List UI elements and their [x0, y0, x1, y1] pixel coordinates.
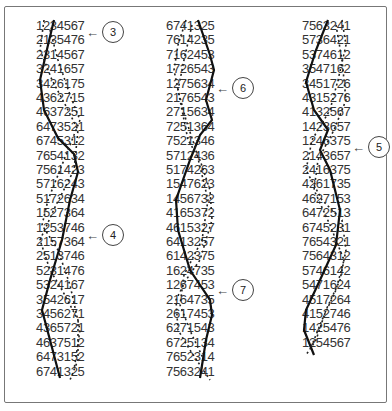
- dotted-path-line: [178, 25, 208, 360]
- dotted-path-line: [42, 30, 80, 370]
- left-arrow-icon: ←: [216, 81, 229, 96]
- left-arrow-icon: ←: [216, 283, 229, 298]
- callout-circle: 6: [232, 77, 254, 99]
- callout-4: ← 4: [86, 224, 124, 246]
- left-arrow-icon: ←: [86, 25, 99, 40]
- callout-3: ← 3: [86, 21, 124, 43]
- dotted-path-line: [306, 20, 346, 355]
- solid-path-line: [176, 20, 214, 378]
- callout-5: ← 5: [352, 136, 390, 158]
- callout-circle: 5: [368, 136, 390, 158]
- callout-6: ← 6: [216, 77, 254, 99]
- left-arrow-icon: ←: [352, 140, 365, 155]
- callout-circle: 3: [102, 21, 124, 43]
- dotted-path-line: [310, 25, 346, 350]
- callout-circle: 7: [232, 279, 254, 301]
- solid-path-line: [304, 20, 340, 355]
- callout-7: ← 7: [216, 279, 254, 301]
- callout-circle: 4: [102, 224, 124, 246]
- dotted-path-line: [174, 20, 212, 380]
- path-lines: [0, 0, 392, 411]
- left-arrow-icon: ←: [86, 228, 99, 243]
